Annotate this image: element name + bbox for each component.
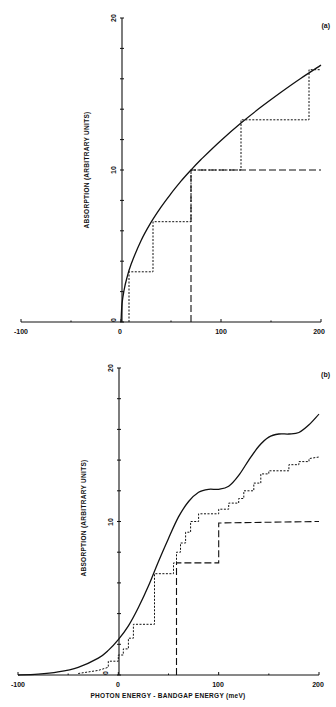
y-tick-label: 10: [107, 518, 114, 526]
panel-b: -100 0 100 200 PHOTON ENERGY - BANDGAP E…: [11, 364, 330, 700]
y-tick-label: 0: [102, 671, 109, 675]
x-tick-label: 0: [116, 681, 120, 688]
x-tick-label: 200: [312, 681, 324, 688]
y-tick-label: 20: [110, 14, 117, 22]
y-tick-label: 10: [110, 166, 117, 174]
y-axis-title: ABSORPTION (ARBITRARY UNITS): [80, 459, 88, 576]
x-tick-label: 200: [313, 328, 325, 335]
x-tick-label: -100: [14, 328, 28, 335]
panel-a: -100 0 100 200 0 10 20 ABSORPTION (ARBIT…: [14, 14, 330, 335]
series-dotted-line: [129, 70, 321, 322]
y-axis-title: ABSORPTION (ARBITRARY UNITS): [83, 111, 91, 228]
axis-ticks: [18, 368, 319, 675]
series-dashed-line: [177, 522, 320, 676]
y-tick-label: 20: [107, 364, 114, 372]
y-tick-label: 0: [110, 318, 117, 322]
x-tick-label: 100: [212, 681, 224, 688]
series-solid-line: [18, 414, 319, 675]
x-tick-label: 100: [215, 328, 227, 335]
panel-label: (b): [321, 371, 330, 379]
x-tick-label: 0: [118, 328, 122, 335]
x-axis-title: PHOTON ENERGY - BANDGAP ENERGY (meV): [90, 692, 245, 700]
series-solid-line: [121, 65, 321, 322]
panel-label: (a): [321, 22, 330, 30]
series-group: [121, 65, 321, 322]
series-dotted-line: [78, 457, 319, 674]
x-tick-label: -100: [11, 681, 25, 688]
series-group: [18, 414, 319, 675]
figure: -100 0 100 200 0 10 20 ABSORPTION (ARBIT…: [0, 0, 336, 707]
series-dashed-line: [191, 170, 321, 322]
